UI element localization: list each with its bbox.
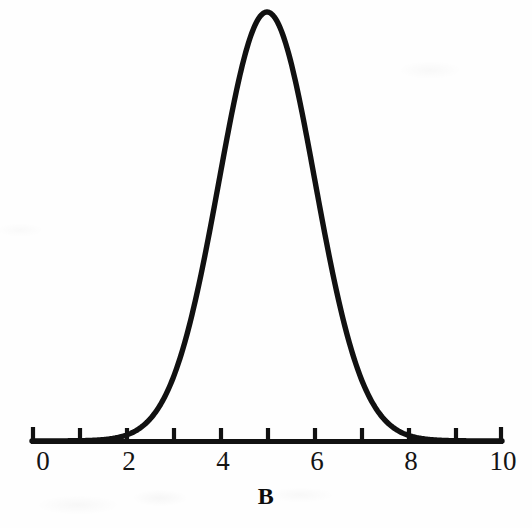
x-tick-label-0: 0: [36, 448, 50, 475]
x-axis-title: B: [258, 483, 275, 510]
distribution-curve: [32, 12, 502, 441]
chart-figure: 0 2 4 6 8 10 B: [0, 0, 532, 528]
x-tick-label-10: 10: [490, 448, 517, 475]
chart-plot-area: [0, 0, 532, 528]
x-tick-label-6: 6: [310, 448, 324, 475]
x-tick-label-4: 4: [216, 448, 230, 475]
x-tick-label-2: 2: [122, 448, 136, 475]
x-tick-label-8: 8: [404, 448, 418, 475]
